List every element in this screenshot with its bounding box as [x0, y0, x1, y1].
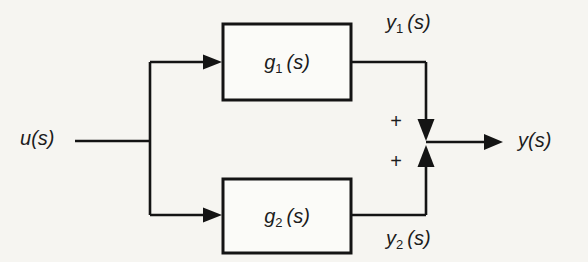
block-g2-text: g2(s)	[264, 204, 310, 228]
signal-y1-label: y1(s)	[386, 10, 431, 34]
y2-arg: (s)	[407, 227, 430, 249]
arrowhead-into-g1-icon	[203, 55, 222, 70]
input-var: u	[20, 127, 31, 149]
sum-sign-top: +	[388, 110, 404, 132]
g2-var: g	[264, 205, 275, 227]
output-arg: (s)	[528, 129, 551, 151]
signal-y2-label: y2(s)	[386, 226, 431, 250]
block-g1-label: g1(s)	[222, 23, 352, 101]
y1-var: y	[386, 11, 396, 33]
sum-sign-bottom: +	[388, 150, 404, 172]
output-var: y	[518, 129, 528, 151]
y2-subscript: 2	[396, 237, 403, 252]
arrowhead-into-g2-icon	[203, 208, 222, 223]
g1-var: g	[264, 51, 275, 73]
arrowhead-sum-top-icon	[418, 119, 435, 141]
y1-subscript: 1	[396, 21, 403, 36]
g2-subscript: 2	[275, 215, 282, 230]
output-signal-label: y(s)	[518, 128, 551, 152]
block-g1-text: g1(s)	[264, 50, 310, 74]
input-arg: (s)	[31, 127, 54, 149]
g1-arg: (s)	[287, 51, 310, 73]
block-diagram-canvas: u(s) g1(s) g2(s) y1(s) y2(s) + + y(s)	[0, 0, 588, 262]
arrowhead-output-icon	[484, 134, 503, 150]
block-g2-label: g2(s)	[222, 178, 352, 254]
arrowhead-sum-bottom-icon	[418, 145, 435, 167]
y2-var: y	[386, 227, 396, 249]
input-signal-label: u(s)	[20, 126, 54, 150]
y1-arg: (s)	[407, 11, 430, 33]
g2-arg: (s)	[287, 205, 310, 227]
g1-subscript: 1	[275, 61, 282, 76]
